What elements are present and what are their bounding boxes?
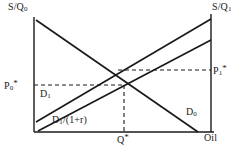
axis-label-right: S/Q1 [212, 2, 231, 13]
axis-label-left-subscript: 0 [24, 5, 28, 13]
curve-label-d1-discounted: D1/(1+r) [52, 115, 87, 126]
axis-label-right-subscript: 1 [228, 5, 232, 13]
axis-label-left: S/Q0 [8, 2, 27, 13]
supply-demand-figure: S/Q0 S/Q1 P0* P1* D1 D1/(1+r) D0 Q* Oil [0, 0, 240, 149]
curve-label-d1: D1 [40, 89, 51, 100]
quantity-label-qstar-star: * [124, 132, 129, 142]
curve-label-d0: D0 [186, 107, 197, 118]
axis-label-right-text: S/Q [212, 1, 228, 12]
curve-label-d1-discounted-suffix: /(1+r) [63, 114, 87, 125]
x-axis-label: Oil [204, 133, 217, 143]
price-label-p0-star: * [13, 78, 18, 88]
price-label-p0: P0* [4, 79, 18, 92]
curve-label-d0-subscript: 0 [193, 110, 197, 118]
price-label-p1: P1* [213, 64, 227, 77]
axis-label-left-text: S/Q [8, 1, 24, 12]
plot-canvas [0, 0, 240, 149]
curve-label-d1-subscript: 1 [47, 92, 51, 100]
price-label-p1-star: * [222, 63, 227, 73]
quantity-label-qstar: Q* [117, 133, 129, 145]
